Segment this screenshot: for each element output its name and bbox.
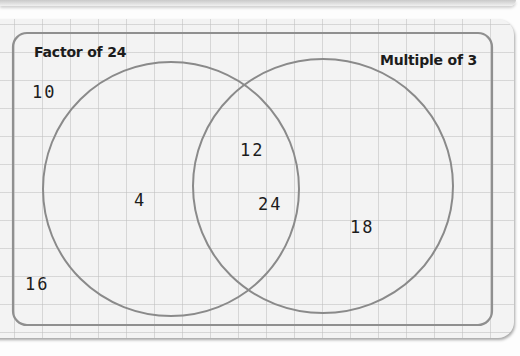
- set-b-label: Multiple of 3: [380, 52, 477, 68]
- set-a-circle: [43, 62, 299, 316]
- set-b-only-number-18: 18: [350, 217, 374, 237]
- outside-number-16: 16: [25, 274, 49, 294]
- outside-number-10: 10: [32, 82, 56, 102]
- venn-diagram-canvas: Factor of 24 Multiple of 3 10 4 12 24 18…: [0, 0, 520, 356]
- universal-set-frame: [13, 33, 492, 325]
- set-b-circle: [193, 59, 453, 313]
- intersection-number-24: 24: [258, 194, 282, 214]
- intersection-number-12: 12: [240, 140, 264, 160]
- set-a-label: Factor of 24: [34, 44, 126, 60]
- set-a-only-number-4: 4: [134, 190, 146, 210]
